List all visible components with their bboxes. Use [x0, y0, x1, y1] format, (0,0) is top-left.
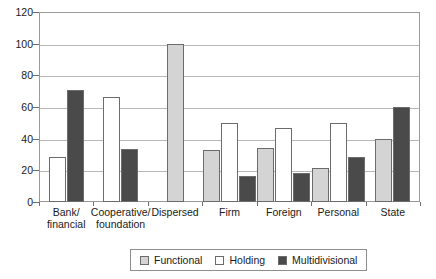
legend-label: Multidivisional	[292, 255, 357, 266]
chart-legend: FunctionalHoldingMultidivisional	[130, 249, 367, 271]
y-tick-label: 80	[3, 70, 33, 81]
legend-item[interactable]: Multidivisional	[278, 255, 357, 266]
legend-label: Functional	[154, 255, 202, 266]
bar	[393, 107, 410, 202]
x-tick-label: State	[338, 206, 436, 218]
y-tick-label: 100	[3, 39, 33, 50]
bars-layer	[39, 12, 420, 202]
legend-swatch-icon	[278, 256, 287, 265]
legend-item[interactable]: Holding	[215, 255, 265, 266]
legend-label: Holding	[229, 255, 265, 266]
bar-group	[39, 12, 420, 202]
bar	[375, 139, 392, 202]
y-tick-label: 40	[3, 134, 33, 145]
legend-item[interactable]: Functional	[140, 255, 202, 266]
legend-swatch-icon	[140, 256, 149, 265]
y-tick-label: 60	[3, 102, 33, 113]
y-tick-label: 20	[3, 165, 33, 176]
y-tick-label: 120	[3, 7, 33, 18]
x-axis-category-labels: Bank/financialCooperative/foundationDisp…	[0, 206, 436, 242]
bar-chart: 020406080100120 Bank/financialCooperativ…	[0, 0, 436, 279]
legend-swatch-icon	[215, 256, 224, 265]
